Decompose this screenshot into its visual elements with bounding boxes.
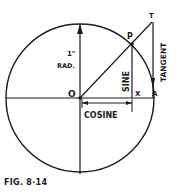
label-sine: SINE xyxy=(122,71,131,92)
radius-arrow-icon xyxy=(77,24,83,34)
label-p: P xyxy=(127,32,133,41)
label-x: X xyxy=(135,90,141,98)
unit-circle-diagram: O P T X A 1" RAD. SINE COSINE TANGENT xyxy=(0,0,186,195)
tangent-arrow-icon xyxy=(151,78,155,88)
label-radius: 1" xyxy=(67,50,76,58)
label-radius-unit: RAD. xyxy=(57,62,75,70)
label-origin: O xyxy=(68,89,76,99)
origin-dot xyxy=(78,96,82,100)
label-cosine: COSINE xyxy=(84,111,118,120)
figure-caption: FIG. 8·14 xyxy=(4,178,47,187)
label-a: A xyxy=(152,90,158,98)
cosine-arrow-right-icon xyxy=(126,101,132,105)
cosine-arrow-left-icon xyxy=(82,101,88,105)
point-p-dot xyxy=(130,42,134,46)
label-tangent: TANGENT xyxy=(159,42,168,82)
label-t: T xyxy=(149,12,154,20)
